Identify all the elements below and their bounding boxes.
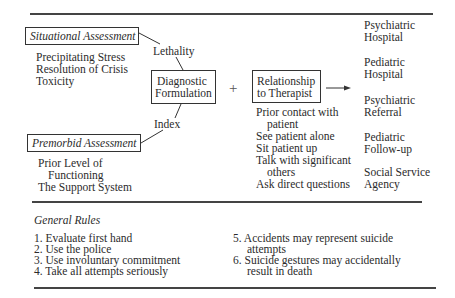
- relationship-item: others: [267, 166, 295, 178]
- premorbid-item: Functioning: [48, 169, 104, 181]
- outcome-line2: Hospital: [364, 68, 405, 80]
- diagnostic-formulation-line2: Formulation: [155, 87, 212, 99]
- outcome-line1: Pediatric: [364, 131, 412, 143]
- outcome-pediatric-follow-up: Pediatric Follow-up: [364, 131, 412, 155]
- relationship-item: Prior contact with: [256, 106, 338, 118]
- premorbid-assessment-title: Premorbid Assessment: [32, 137, 136, 149]
- relationship-item: Sit patient up: [256, 142, 317, 154]
- outcome-psychiatric-referral: Psychiatric Referral: [364, 94, 415, 118]
- relationship-line2: to Therapist: [257, 87, 312, 99]
- relationship-item: patient: [267, 118, 298, 130]
- premorbid-assessment-box: Premorbid Assessment: [27, 134, 141, 152]
- diagnostic-formulation-line1: Diagnostic: [157, 75, 207, 87]
- situational-item: Resolution of Crisis: [36, 63, 128, 75]
- outcome-psychiatric-hospital: Psychiatric Hospital: [364, 19, 415, 43]
- outcome-pediatric-hospital: Pediatric Hospital: [364, 56, 405, 80]
- lethality-label: Lethality: [153, 45, 195, 57]
- outcome-line2: Agency: [364, 178, 430, 190]
- outcome-line1: Pediatric: [364, 56, 405, 68]
- rule-item-cont: result in death: [247, 265, 312, 277]
- arrow-head-icon: [344, 86, 351, 91]
- situational-item: Precipitating Stress: [36, 51, 125, 63]
- situational-assessment-box: Situational Assessment: [25, 27, 139, 45]
- index-label: Index: [154, 118, 180, 130]
- rule-item: 4. Take all attempts seriously: [34, 265, 168, 277]
- outcome-line2: Referral: [364, 106, 415, 118]
- outcome-line2: Follow-up: [364, 143, 412, 155]
- premorbid-item: Prior Level of: [38, 157, 103, 169]
- relationship-to-therapist-box: Relationship to Therapist: [252, 70, 321, 103]
- premorbid-item: The Support System: [38, 181, 132, 193]
- outcome-line1: Social Service: [364, 166, 430, 178]
- situational-assessment-title: Situational Assessment: [30, 30, 136, 42]
- diagnostic-formulation-box: Diagnostic Formulation: [151, 70, 216, 104]
- general-rules-title: General Rules: [34, 214, 100, 226]
- situational-item: Toxicity: [36, 75, 74, 87]
- outcome-line2: Hospital: [364, 31, 415, 43]
- relationship-item: Ask direct questions: [256, 178, 350, 190]
- relationship-line1: Relationship: [257, 75, 315, 87]
- plus-symbol: +: [229, 81, 237, 96]
- outcome-line1: Psychiatric: [364, 94, 415, 106]
- relationship-item: See patient alone: [256, 130, 335, 142]
- outcome-line1: Psychiatric: [364, 19, 415, 31]
- relationship-item: Talk with significant: [256, 154, 351, 166]
- outcome-social-service-agency: Social Service Agency: [364, 166, 430, 190]
